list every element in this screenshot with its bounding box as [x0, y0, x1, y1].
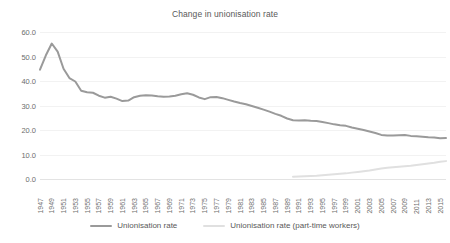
x-tick-label: 1957: [95, 198, 102, 214]
y-tick-label: 10.0: [0, 150, 36, 159]
x-axis: 1947194919511953195519571959196119631965…: [40, 180, 446, 214]
y-tick-label: 60.0: [0, 28, 36, 37]
legend-swatch-icon: [90, 225, 112, 227]
legend-label: Unionisation rate: [117, 221, 177, 230]
x-tick-label: 1963: [131, 198, 138, 214]
plot-area: [40, 32, 446, 179]
x-tick-label: 1971: [178, 198, 185, 214]
x-tick-label: 1947: [37, 198, 44, 214]
x-tick-label: 2009: [401, 198, 408, 214]
x-tick-label: 1987: [272, 198, 279, 214]
y-axis: 0.010.020.030.040.050.060.0: [0, 32, 36, 179]
x-tick-label: 2015: [437, 198, 444, 214]
x-tick-label: 1989: [284, 198, 291, 214]
x-tick-label: 1979: [225, 198, 232, 214]
x-tick-label: 2013: [425, 198, 432, 214]
x-tick-label: 1953: [72, 198, 79, 214]
y-tick-label: 40.0: [0, 77, 36, 86]
legend-label: Unionisation rate (part-time workers): [230, 221, 359, 230]
legend-item[interactable]: Unionisation rate (part-time workers): [203, 221, 359, 230]
y-tick-label: 50.0: [0, 52, 36, 61]
x-tick-label: 2011: [413, 199, 420, 214]
series-line: [293, 161, 446, 177]
chart-title: Change in unionisation rate: [0, 9, 450, 19]
x-tick-label: 1991: [295, 198, 302, 214]
x-tick-label: 1955: [84, 198, 91, 214]
x-tick-label: 2001: [354, 198, 361, 214]
x-tick-label: 1973: [189, 198, 196, 214]
x-tick-label: 1951: [60, 198, 67, 214]
x-tick-label: 2003: [366, 198, 373, 214]
x-tick-label: 1981: [237, 198, 244, 214]
x-tick-label: 1977: [213, 198, 220, 214]
x-tick-label: 1965: [142, 198, 149, 214]
legend-swatch-icon: [203, 225, 225, 227]
x-tick-label: 1959: [107, 198, 114, 214]
x-tick-label: 1961: [119, 198, 126, 214]
chart-legend: Unionisation rateUnionisation rate (part…: [0, 221, 450, 230]
x-tick-label: 1985: [260, 198, 267, 214]
x-tick-label: 1949: [48, 198, 55, 214]
x-tick-label: 1967: [154, 198, 161, 214]
y-tick-label: 30.0: [0, 101, 36, 110]
x-tick-label: 2007: [390, 198, 397, 214]
x-tick-label: 1983: [248, 198, 255, 214]
x-tick-label: 1969: [166, 198, 173, 214]
x-tick-label: 1993: [307, 198, 314, 214]
legend-item[interactable]: Unionisation rate: [90, 221, 177, 230]
chart-container: Change in unionisation rate 0.010.020.03…: [0, 0, 450, 243]
series-lines: [40, 32, 446, 179]
series-line: [40, 44, 446, 139]
x-tick-label: 1999: [342, 198, 349, 214]
x-tick-label: 1975: [201, 198, 208, 214]
x-tick-label: 2005: [378, 198, 385, 214]
x-tick-label: 1995: [319, 198, 326, 214]
y-tick-label: 20.0: [0, 126, 36, 135]
y-tick-label: 0.0: [0, 175, 36, 184]
x-tick-label: 1997: [331, 198, 338, 214]
